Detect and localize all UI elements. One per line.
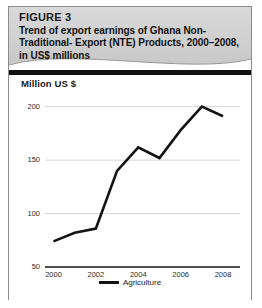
figure-title-line-3: in US$ millions bbox=[19, 50, 90, 61]
figure-root: FIGURE 3 Trend of export earnings of Gha… bbox=[0, 0, 262, 308]
gridlines bbox=[45, 107, 240, 214]
legend-swatch-agriculture bbox=[99, 281, 119, 284]
y-tick-label: 150 bbox=[16, 155, 40, 164]
series-line-agriculture bbox=[53, 107, 223, 242]
y-tick-label: 100 bbox=[16, 209, 40, 218]
legend-label-agriculture: Agriculture bbox=[123, 278, 161, 287]
figure-header-text: FIGURE 3 Trend of export earnings of Gha… bbox=[9, 7, 251, 71]
figure-title-line-1: Trend of export earnings of Ghana Non- bbox=[19, 25, 206, 36]
line-chart-plot bbox=[9, 75, 251, 300]
chart-legend: Agriculture bbox=[9, 278, 251, 287]
figure-title-line-2: Traditional- Export (NTE) Products, 2000… bbox=[19, 37, 239, 48]
figure-number-label: FIGURE 3 bbox=[19, 11, 243, 24]
figure-title: Trend of export earnings of Ghana Non- T… bbox=[19, 25, 243, 62]
series-lines bbox=[53, 107, 223, 242]
y-tick-label: 200 bbox=[16, 102, 40, 111]
y-tick-label: 50 bbox=[16, 262, 40, 271]
chart-area: Million US $ 20015010050 200020022004200… bbox=[9, 75, 251, 300]
